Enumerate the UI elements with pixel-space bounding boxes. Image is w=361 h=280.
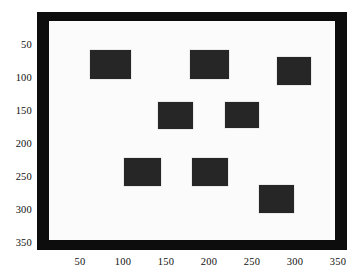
image-blob: [158, 102, 192, 129]
image-blob: [190, 50, 229, 79]
x-axis-tick-label: 150: [158, 257, 174, 268]
y-axis-tick-label: 300: [16, 205, 32, 216]
x-axis-tick-label: 350: [330, 257, 346, 268]
image-blob: [259, 185, 294, 213]
x-axis-tick-label: 300: [287, 257, 303, 268]
y-axis-tick-label: 100: [16, 73, 32, 84]
x-axis-tick-label: 200: [201, 257, 217, 268]
image-blob: [192, 158, 228, 186]
x-axis-tick-label: 100: [115, 257, 131, 268]
image-blob: [277, 57, 311, 85]
image-axes: [37, 12, 347, 250]
y-axis-tick-label: 250: [16, 172, 32, 183]
y-axis-tick-label: 350: [16, 238, 32, 249]
y-axis-tick-label: 50: [21, 40, 32, 51]
image-blob: [90, 50, 130, 79]
y-axis-tick-label: 200: [16, 139, 32, 150]
image-blob: [124, 158, 161, 186]
figure-canvas: 50100150200250300350 5010015020025030035…: [0, 0, 361, 280]
y-axis-tick-label: 150: [16, 106, 32, 117]
image-blob: [225, 102, 259, 128]
x-axis-tick-label: 50: [75, 257, 86, 268]
x-axis-tick-label: 250: [244, 257, 260, 268]
